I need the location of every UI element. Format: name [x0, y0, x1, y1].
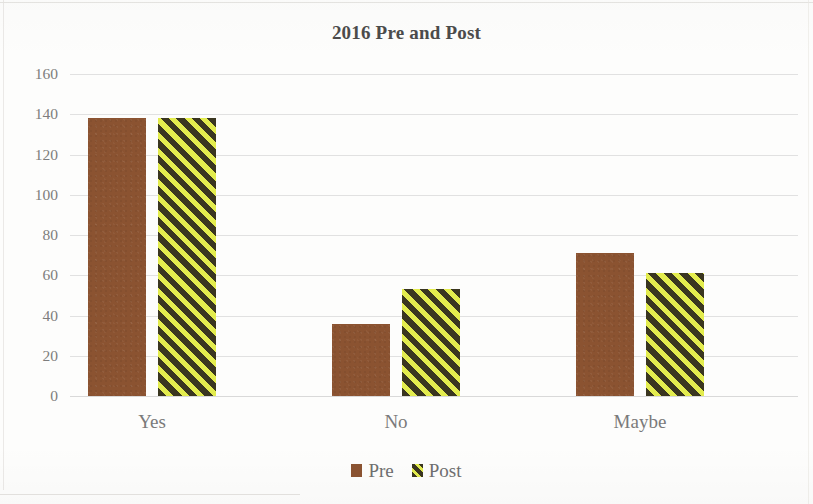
bar-pre-yes	[88, 118, 146, 396]
chart-legend: PrePost	[0, 461, 813, 480]
legend-item-post[interactable]: Post	[412, 461, 462, 480]
plot-area: 020406080100120140160 YesNoMaybe	[0, 0, 813, 504]
y-axis-tick-label: 60	[12, 266, 58, 284]
y-axis-tick-label: 100	[12, 186, 58, 204]
x-axis-label-yes: Yes	[88, 411, 216, 433]
bar-pre-no	[332, 324, 390, 396]
legend-swatch-pre-icon	[351, 464, 362, 477]
legend-label-post: Post	[429, 461, 462, 480]
bar-post-maybe	[646, 273, 704, 396]
y-axis-tick-label: 40	[12, 307, 58, 325]
gridline-140	[70, 114, 798, 115]
x-axis-label-maybe: Maybe	[576, 411, 704, 433]
gridline-0	[70, 396, 798, 397]
y-axis-tick-label: 160	[12, 65, 58, 83]
bar-pre-maybe	[576, 253, 634, 396]
y-axis-tick-label: 120	[12, 146, 58, 164]
x-axis-label-no: No	[332, 411, 460, 433]
bar-post-yes	[158, 118, 216, 396]
y-axis-tick-label: 140	[12, 105, 58, 123]
gridline-160	[70, 74, 798, 75]
legend-item-pre[interactable]: Pre	[351, 461, 393, 480]
y-axis-tick-label: 80	[12, 226, 58, 244]
chart-page: 2016 Pre and Post 020406080100120140160 …	[0, 0, 813, 504]
y-axis-tick-label: 20	[12, 347, 58, 365]
legend-label-pre: Pre	[368, 461, 393, 480]
y-axis-tick-label: 0	[12, 387, 58, 405]
bar-post-no	[402, 289, 460, 396]
legend-swatch-post-icon	[412, 464, 423, 477]
